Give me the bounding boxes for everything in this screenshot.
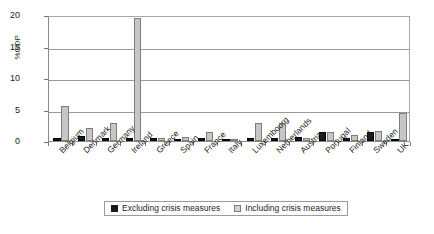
bar-group: [102, 17, 117, 141]
bar-group: [367, 17, 382, 141]
y-tick-label: 15: [0, 43, 20, 52]
y-tick-label: 10: [0, 74, 20, 83]
bar-group: [319, 17, 334, 141]
bar-chart: %GDP 05101520 BelgiumDenmarkGermanyIrela…: [0, 0, 434, 234]
bar-incl-uk: [399, 113, 406, 141]
bar-group: [174, 17, 189, 141]
bar-group: [150, 17, 165, 141]
y-tick-label: 0: [0, 137, 20, 146]
bar-group: [247, 17, 262, 141]
bar-group: [391, 17, 406, 141]
legend-item-excluding: Excluding crisis measures: [111, 204, 220, 213]
bar-group: [222, 17, 237, 141]
legend-swatch-including-icon: [234, 205, 241, 212]
bar-excl-belgium: [53, 138, 60, 141]
bar-group: [78, 17, 93, 141]
x-axis-labels: BelgiumDenmarkGermanyIrelandGreeceSpainF…: [0, 146, 434, 194]
chart-legend: Excluding crisis measures Including cris…: [104, 201, 348, 216]
bar-excl-luxembourg: [247, 138, 254, 141]
bar-group: [53, 17, 68, 141]
legend-label-including: Including crisis measures: [245, 204, 340, 213]
bar-group: [343, 17, 358, 141]
legend-item-including: Including crisis measures: [234, 204, 340, 213]
plot-area: [48, 16, 410, 142]
bar-group: [126, 17, 141, 141]
y-tick-label: 5: [0, 106, 20, 115]
legend-label-excluding: Excluding crisis measures: [122, 204, 220, 213]
bar-incl-ireland: [134, 18, 141, 141]
legend-swatch-excluding-icon: [111, 205, 118, 212]
bar-series-group: [49, 17, 409, 141]
y-tick-label: 20: [0, 11, 20, 20]
bar-group: [198, 17, 213, 141]
